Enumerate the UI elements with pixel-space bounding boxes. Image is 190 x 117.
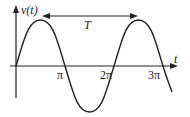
period-label: T [84,19,91,31]
sine-plot [0,0,190,117]
tick-label-3pi: 3π [148,69,160,81]
period-arrow-right-icon [130,13,138,19]
tick-label-2pi: 2π [100,69,112,81]
y-axis-label: v(t) [21,4,38,16]
x-axis-label: t [174,53,177,65]
tick-label-pi: π [57,69,63,81]
period-arrow-left-icon [42,13,50,19]
y-axis-arrow-icon [13,5,19,13]
